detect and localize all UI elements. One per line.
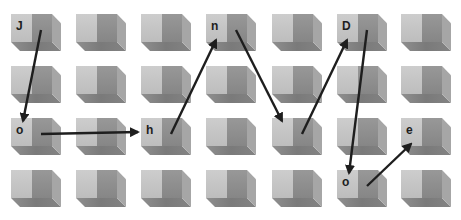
path-arrow-6 <box>349 30 367 173</box>
path-arrow-4 <box>236 30 282 121</box>
path-arrow-7 <box>367 144 411 186</box>
path-arrow-1 <box>23 30 41 121</box>
path-arrow-5 <box>302 40 347 134</box>
cube-grid-diagram: JnDoheo <box>0 0 461 220</box>
path-arrow-3 <box>171 40 216 134</box>
arrow-layer <box>0 0 461 220</box>
path-arrow-2 <box>41 132 138 134</box>
